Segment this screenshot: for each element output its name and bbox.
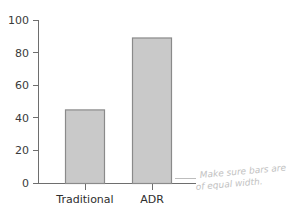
x-axis-ticks bbox=[86, 184, 153, 191]
x-axis-tick-labels: Traditional ADR bbox=[55, 193, 164, 206]
y-axis-ticks bbox=[33, 21, 39, 184]
x-label-traditional: Traditional bbox=[55, 193, 113, 206]
y-tick-label-100: 100 bbox=[8, 14, 29, 27]
x-label-adr: ADR bbox=[140, 193, 164, 206]
bar-series bbox=[66, 38, 172, 184]
bar-adr bbox=[133, 38, 172, 184]
bar-traditional bbox=[66, 110, 105, 184]
y-tick-label-40: 40 bbox=[15, 112, 29, 125]
chart-canvas: 100 80 60 40 20 0 Traditional ADR Make s… bbox=[0, 0, 298, 218]
y-tick-label-60: 60 bbox=[15, 79, 29, 92]
y-tick-label-0: 0 bbox=[22, 177, 29, 190]
y-tick-label-80: 80 bbox=[15, 47, 29, 60]
y-axis-tick-labels: 100 80 60 40 20 0 bbox=[8, 14, 29, 190]
y-tick-label-20: 20 bbox=[15, 144, 29, 157]
bar-chart: 100 80 60 40 20 0 Traditional ADR Make s… bbox=[0, 0, 298, 218]
annotation-equal-width: Make sure bars are of equal width. bbox=[195, 162, 287, 192]
